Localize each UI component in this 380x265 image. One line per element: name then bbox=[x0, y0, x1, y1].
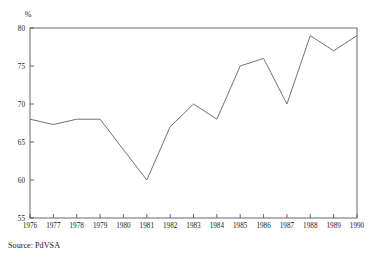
x-tick-label: 1989 bbox=[326, 222, 341, 230]
x-tick-label: 1987 bbox=[280, 222, 295, 230]
x-tick-label: 1984 bbox=[210, 222, 225, 230]
x-tick-label: 1977 bbox=[46, 222, 61, 230]
y-tick-label: 75 bbox=[18, 63, 26, 71]
chart-plot-area: % 556065707580 1976197719781979198019811… bbox=[0, 0, 380, 238]
x-tick-label: 1986 bbox=[256, 222, 271, 230]
line-chart-svg: % 556065707580 1976197719781979198019811… bbox=[0, 0, 380, 238]
y-axis-tick-labels: 556065707580 bbox=[18, 25, 26, 223]
y-tick-label: 60 bbox=[18, 177, 26, 185]
y-tick-label: 70 bbox=[18, 101, 26, 109]
data-series-line bbox=[30, 36, 357, 180]
y-tick-label: 80 bbox=[18, 25, 26, 33]
x-tick-label: 1985 bbox=[233, 222, 248, 230]
x-axis-tick-labels: 1976197719781979198019811982198319841985… bbox=[23, 222, 365, 230]
x-tick-label: 1988 bbox=[303, 222, 318, 230]
figure-container: % 556065707580 1976197719781979198019811… bbox=[0, 0, 380, 265]
x-tick-label: 1978 bbox=[70, 222, 85, 230]
x-axis-ticks bbox=[30, 214, 357, 218]
y-axis-ticks bbox=[30, 28, 34, 218]
plot-frame bbox=[30, 28, 357, 218]
source-note: Source: PdVSA bbox=[8, 240, 60, 251]
x-tick-label: 1976 bbox=[23, 222, 38, 230]
x-tick-label: 1983 bbox=[186, 222, 201, 230]
y-axis-unit-label: % bbox=[25, 10, 32, 19]
x-tick-label: 1982 bbox=[163, 222, 178, 230]
x-tick-label: 1990 bbox=[350, 222, 365, 230]
x-tick-label: 1979 bbox=[93, 222, 108, 230]
y-tick-label: 65 bbox=[18, 139, 26, 147]
x-tick-label: 1981 bbox=[140, 222, 155, 230]
x-tick-label: 1980 bbox=[116, 222, 131, 230]
